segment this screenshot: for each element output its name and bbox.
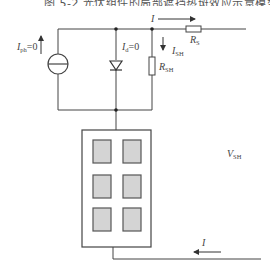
series-resistor-icon (186, 26, 201, 32)
pv-module (82, 130, 151, 247)
pv-cell (123, 175, 141, 198)
pv-cell (93, 175, 111, 198)
shunt-resistor-label: RSH (158, 61, 174, 73)
pv-cell (93, 208, 111, 231)
diode-current-label: Id=0 (121, 41, 139, 53)
photocurrent-label: Iph=0 (16, 41, 37, 53)
bottom-current-label: I (201, 237, 206, 248)
pv-cell (123, 208, 141, 231)
pv-cell (123, 140, 141, 163)
current-source-icon (48, 54, 68, 74)
series-resistor-label: RS (189, 34, 200, 46)
circuit-diagram: Iph=0 Id=0 I ISH RSH RS VSH I (0, 0, 270, 276)
top-current-label: I (150, 13, 155, 24)
shunt-resistor-icon (149, 57, 155, 75)
shunt-current-label: ISH (171, 45, 184, 57)
diode-icon (110, 61, 122, 70)
pv-cell (93, 140, 111, 163)
shunt-voltage-label: VSH (227, 148, 242, 160)
